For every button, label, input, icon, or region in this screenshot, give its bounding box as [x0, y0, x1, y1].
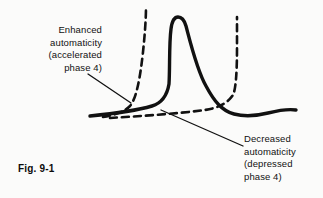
figure-caption: Fig. 9-1: [18, 163, 55, 174]
decreased-leader-line: [161, 110, 243, 146]
label-decreased-automaticity: Decreased automaticity (depressed phase …: [244, 133, 320, 183]
label-enhanced-automaticity: Enhanced automaticity (accelerated phase…: [6, 24, 102, 74]
figure-panel: Enhanced automaticity (accelerated phase…: [0, 0, 323, 198]
normal-action-potential-curve: [90, 17, 296, 116]
enhanced-leader-line: [88, 74, 131, 103]
accelerated-phase4-curve: [103, 6, 146, 117]
